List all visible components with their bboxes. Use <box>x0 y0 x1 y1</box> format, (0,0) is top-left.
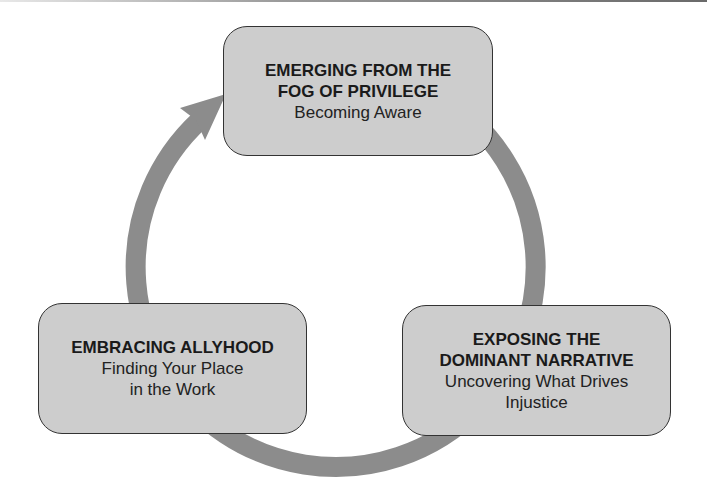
stage-title: EXPOSING THE <box>473 329 601 350</box>
stage-subtitle: Injustice <box>505 392 567 413</box>
stage-subtitle: Finding Your Place <box>102 358 244 379</box>
stage-title: FOG OF PRIVILEGE <box>278 81 439 102</box>
stage-subtitle: Uncovering What Drives <box>445 371 628 392</box>
stage-title: EMBRACING ALLYHOOD <box>71 337 274 358</box>
stage-subtitle: in the Work <box>130 379 216 400</box>
stage-box-emerging: EMERGING FROM THE FOG OF PRIVILEGE Becom… <box>223 26 493 156</box>
stage-title: DOMINANT NARRATIVE <box>439 350 633 371</box>
stage-subtitle: Becoming Aware <box>294 102 421 123</box>
stage-box-embracing: EMBRACING ALLYHOOD Finding Your Place in… <box>38 303 307 434</box>
stage-title: EMERGING FROM THE <box>265 60 451 81</box>
stage-box-exposing: EXPOSING THE DOMINANT NARRATIVE Uncoveri… <box>402 305 671 436</box>
